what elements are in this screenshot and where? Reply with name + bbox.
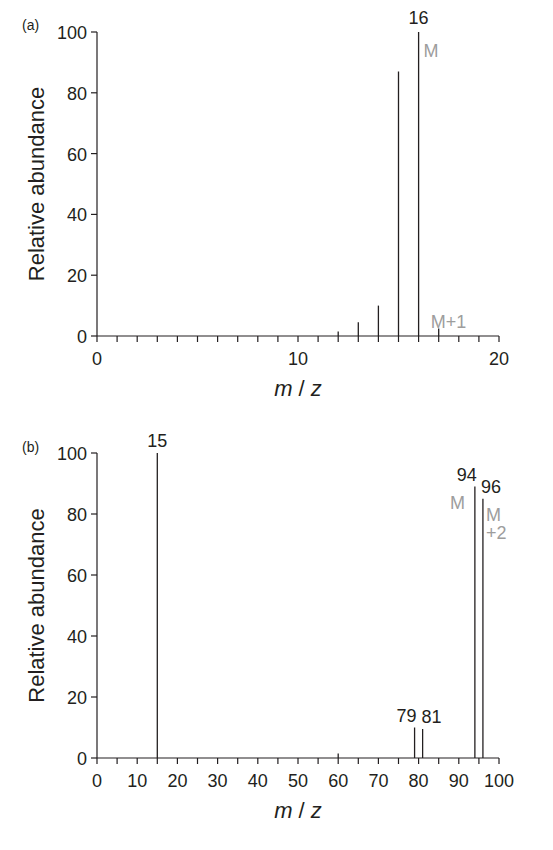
y-tick-label: 40	[67, 627, 87, 647]
y-tick-label: 80	[67, 505, 87, 525]
peak-label-79: 79	[397, 706, 417, 726]
x-tick-label: 20	[167, 771, 187, 791]
x-tick-label: 40	[248, 771, 268, 791]
chart-panel-a: (a)02040608010001020m / zRelative abunda…	[22, 8, 509, 401]
x-axis-title-part: /	[292, 376, 310, 401]
y-tick-label: 0	[77, 749, 87, 769]
x-tick-label: 30	[208, 771, 228, 791]
peak-label-15: 15	[147, 431, 167, 451]
x-tick-label: 20	[489, 349, 509, 369]
x-axis-title-part: m	[274, 376, 292, 401]
annotation-label: +2	[486, 523, 507, 543]
annotation-label: M	[450, 493, 465, 513]
mass-spectra-figure: (a)02040608010001020m / zRelative abunda…	[0, 0, 553, 850]
peak-label-94: 94	[457, 465, 477, 485]
y-axis-title: Relative abundance	[24, 508, 49, 702]
panel-label: (a)	[22, 17, 39, 33]
peak-label-96: 96	[481, 477, 501, 497]
x-tick-label: 10	[288, 349, 308, 369]
y-tick-label: 20	[67, 688, 87, 708]
annotation-label: M	[486, 505, 501, 525]
annotation-label: M	[424, 41, 439, 61]
x-axis-title: m / z	[274, 798, 322, 823]
x-axis-title-part: /	[292, 798, 310, 823]
y-tick-label: 60	[67, 566, 87, 586]
peak-label-81: 81	[422, 707, 442, 727]
chart-panel-b: (b)0204060801000102030405060708090100m /…	[22, 431, 514, 823]
y-tick-label: 100	[57, 444, 87, 464]
y-tick-label: 100	[57, 23, 87, 43]
x-tick-label: 90	[449, 771, 469, 791]
x-axis-title-part: z	[310, 798, 322, 823]
x-axis-title-part: m	[274, 798, 292, 823]
y-tick-label: 0	[77, 327, 87, 347]
y-tick-label: 40	[67, 205, 87, 225]
annotation-label: M+1	[431, 312, 467, 332]
x-axis-title-part: z	[310, 376, 322, 401]
x-tick-label: 0	[92, 349, 102, 369]
y-tick-label: 20	[67, 266, 87, 286]
y-tick-label: 60	[67, 145, 87, 165]
x-tick-label: 60	[328, 771, 348, 791]
panel-label: (b)	[22, 439, 39, 455]
x-tick-label: 70	[368, 771, 388, 791]
x-axis-title: m / z	[274, 376, 322, 401]
y-tick-label: 80	[67, 84, 87, 104]
x-tick-label: 50	[288, 771, 308, 791]
x-tick-label: 80	[409, 771, 429, 791]
y-axis-title: Relative abundance	[24, 87, 49, 281]
x-tick-label: 100	[484, 771, 514, 791]
peak-label-16: 16	[409, 8, 429, 28]
x-tick-label: 10	[127, 771, 147, 791]
x-tick-label: 0	[92, 771, 102, 791]
